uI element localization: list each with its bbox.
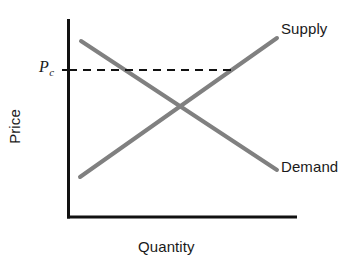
price-ceiling-symbol: P bbox=[39, 58, 49, 75]
supply-curve-label: Supply bbox=[281, 20, 327, 37]
price-ceiling-subscript: c bbox=[49, 66, 54, 78]
y-axis-label: Price bbox=[6, 109, 23, 144]
price-ceiling-label: Pc bbox=[39, 58, 54, 78]
demand-curve-label: Demand bbox=[281, 158, 338, 175]
supply-demand-figure: Supply Demand Quantity Price Pc bbox=[0, 0, 360, 273]
x-axis-label: Quantity bbox=[138, 238, 195, 255]
plot-area bbox=[0, 0, 360, 273]
